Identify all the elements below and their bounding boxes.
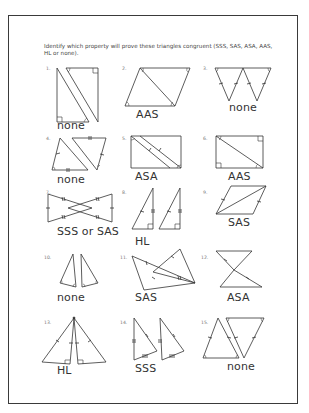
- diagram-1: [57, 68, 98, 122]
- answer-1: none: [57, 119, 85, 132]
- answer-9: SAS: [228, 216, 250, 229]
- answer-2: AAS: [136, 108, 159, 121]
- diagram-5: [131, 136, 181, 168]
- diagram-13: [42, 317, 106, 364]
- answer-15: none: [227, 360, 255, 373]
- diagram-11: [132, 249, 195, 290]
- answer-8: HL: [135, 235, 150, 248]
- triangle-diagrams: [0, 0, 309, 413]
- diagram-3: [215, 68, 271, 101]
- answer-5: ASA: [135, 170, 158, 183]
- answer-10: none: [57, 291, 85, 304]
- answer-11: SAS: [135, 291, 157, 304]
- diagram-12: [216, 251, 262, 287]
- diagram-9: [216, 186, 266, 214]
- diagram-4: [52, 136, 106, 172]
- answer-6: AAS: [228, 170, 251, 183]
- diagram-2: [125, 68, 190, 106]
- diagram-7: [46, 194, 114, 222]
- diagram-8: [132, 188, 182, 229]
- diagram-10: [60, 254, 98, 287]
- diagram-6: [216, 136, 263, 168]
- answer-7: SSS or SAS: [57, 225, 119, 238]
- diagram-14: [132, 318, 184, 360]
- answer-4: none: [57, 173, 85, 186]
- answer-13: HL: [57, 364, 72, 377]
- answer-12: ASA: [227, 291, 250, 304]
- answer-14: SSS: [135, 362, 156, 375]
- answer-3: none: [229, 101, 257, 114]
- diagram-15: [203, 318, 264, 358]
